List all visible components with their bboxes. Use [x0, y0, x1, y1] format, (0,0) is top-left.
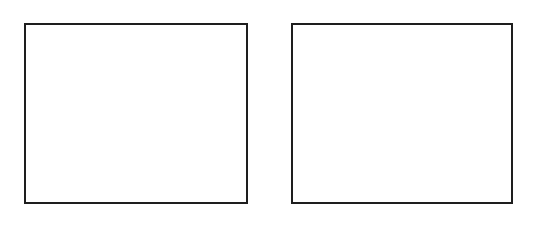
- empty-frame-right: [291, 23, 513, 204]
- empty-frame-left: [24, 23, 248, 204]
